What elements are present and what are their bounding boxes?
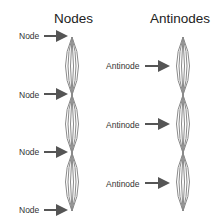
left-wave — [66, 37, 79, 211]
standing-wave-diagram — [0, 0, 224, 224]
right-wave — [177, 37, 190, 211]
arrow-icons — [44, 36, 168, 210]
